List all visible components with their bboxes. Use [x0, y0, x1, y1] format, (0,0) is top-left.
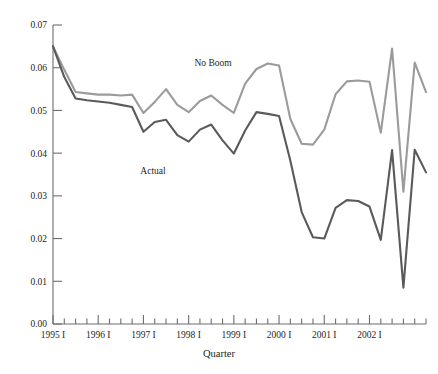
- y-axis-tick-label: 0.03: [30, 191, 47, 201]
- x-axis-tick-label: 2002 I: [357, 330, 382, 340]
- y-axis-tick-label: 0.01: [30, 277, 47, 287]
- x-axis-tick-label: 1998 I: [176, 330, 201, 340]
- y-axis-tick-label: 0.00: [30, 319, 47, 329]
- chart-background: [0, 0, 438, 374]
- x-axis-tick-label: 2001 I: [312, 330, 337, 340]
- y-axis-tick-label: 0.02: [30, 234, 47, 244]
- x-axis-tick-label: 2000 I: [267, 330, 292, 340]
- y-axis-tick-label: 0.05: [30, 106, 47, 116]
- chart-figure: 0.000.010.020.030.040.050.060.07 1995 I1…: [0, 0, 438, 374]
- y-axis-tick-label: 0.04: [30, 149, 47, 159]
- series-label-no-boom: No Boom: [194, 58, 232, 68]
- x-axis-title: Quarter: [203, 348, 236, 359]
- x-axis-tick-label: 1999 I: [222, 330, 247, 340]
- x-axis-tick-label: 1996 I: [86, 330, 111, 340]
- series-label-actual: Actual: [140, 166, 166, 176]
- x-axis-tick-label: 1995 I: [41, 330, 66, 340]
- y-axis-tick-label: 0.07: [30, 20, 47, 30]
- x-axis-tick-label: 1997 I: [131, 330, 156, 340]
- line-chart: 0.000.010.020.030.040.050.060.07 1995 I1…: [0, 0, 438, 374]
- y-axis-tick-label: 0.06: [30, 63, 47, 73]
